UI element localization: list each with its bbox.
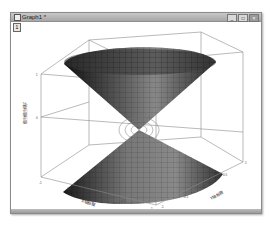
close-button[interactable]: × [249,14,259,22]
svg-text:0.5: 0.5 [223,173,228,177]
window-bottom-border [11,209,261,213]
window-controls: _ □ × [227,14,259,22]
svg-text:-0.5: -0.5 [66,187,72,191]
window-title: Graph1 * [22,13,46,21]
z-axis-title: Z轴标题标题 [22,102,28,124]
z-tick-top: 1 [36,73,38,77]
svg-text:-0.5: -0.5 [183,195,189,199]
title-bar[interactable]: Graph1 * _ □ × [11,13,261,22]
lower-cone-surface [63,130,223,204]
graph-window-icon [14,14,21,21]
upper-cone-surface [64,47,216,130]
maximize-button[interactable]: □ [238,14,248,22]
minimize-button[interactable]: _ [227,14,237,22]
z-tick-mid: 0 [36,116,38,120]
3d-cone-plot[interactable]: 1 0 Z轴标题标题 -1 -0.5 0 0.5 1 X轴标题 -1 -0.5 … [11,22,261,212]
svg-text:-1: -1 [39,181,42,185]
svg-text:1: 1 [245,161,247,165]
graph-window: Graph1 * _ □ × 1 [10,12,262,214]
z-axis: 1 0 Z轴标题标题 [22,73,38,124]
y-axis-title: Y轴标题 [209,189,225,201]
svg-text:0.5: 0.5 [121,199,126,203]
